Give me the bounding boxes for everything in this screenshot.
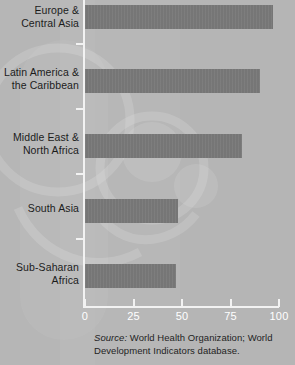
category-label-line-2: North Africa xyxy=(0,144,79,157)
y-axis-line xyxy=(83,0,85,308)
x-axis-tick-label: 100 xyxy=(259,310,295,322)
x-axis-tick xyxy=(133,299,135,307)
x-axis-tick-label: 25 xyxy=(114,310,154,322)
category-label-line-1: Europe & xyxy=(0,4,79,17)
chart-figure: Europe & Central Asia Latin America & th… xyxy=(0,0,295,365)
bar-europe-central-asia xyxy=(85,5,273,29)
category-label-line-1: Middle East & xyxy=(0,131,79,144)
y-axis-tick xyxy=(76,238,83,240)
category-label-line-2: Africa xyxy=(0,274,79,287)
x-axis-tick xyxy=(230,299,232,307)
category-label-middle-east-north-africa: Middle East & North Africa xyxy=(0,131,79,157)
plot-area: Europe & Central Asia Latin America & th… xyxy=(0,0,295,365)
source-note: Source: World Health Organization; World… xyxy=(94,332,294,357)
category-label-line-2: the Caribbean xyxy=(0,79,79,92)
x-axis-tick xyxy=(278,299,280,307)
category-label-latin-america-caribbean: Latin America & the Caribbean xyxy=(0,66,79,92)
y-axis-tick xyxy=(76,108,83,110)
x-axis-tick-label: 75 xyxy=(211,310,251,322)
bar-latin-america-caribbean xyxy=(85,69,260,93)
category-label-line-2: Central Asia xyxy=(0,17,79,30)
y-axis-tick xyxy=(76,173,83,175)
category-label-line-1: Sub-Saharan xyxy=(0,261,79,274)
x-axis-tick xyxy=(84,299,86,307)
source-note-lead: Source: xyxy=(94,332,127,343)
x-axis-tick-label: 50 xyxy=(162,310,202,322)
bar-middle-east-north-africa xyxy=(85,134,242,158)
category-label-line-1: South Asia xyxy=(0,202,79,215)
x-axis-tick-label: 0 xyxy=(65,310,105,322)
y-axis-tick xyxy=(76,43,83,45)
bar-sub-saharan-africa xyxy=(85,264,176,288)
category-label-europe-central-asia: Europe & Central Asia xyxy=(0,4,79,30)
category-label-south-asia: South Asia xyxy=(0,202,79,215)
bar-south-asia xyxy=(85,199,178,223)
x-axis-tick xyxy=(181,299,183,307)
category-label-sub-saharan-africa: Sub-Saharan Africa xyxy=(0,261,79,287)
category-label-line-1: Latin America & xyxy=(0,66,79,79)
